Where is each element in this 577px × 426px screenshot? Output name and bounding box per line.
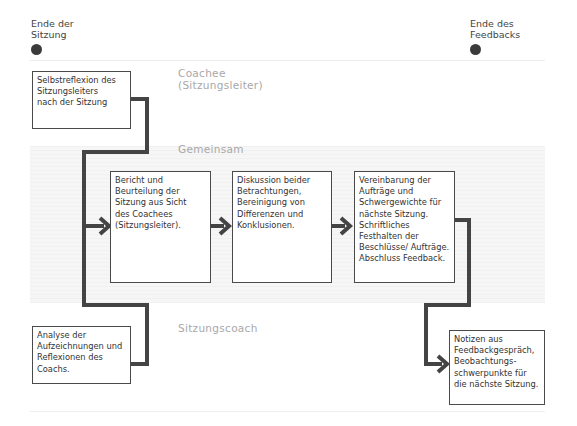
box-text-line: nach der Sitzung [37, 97, 126, 108]
milestone-end-of-session-dot-icon [31, 44, 42, 55]
box-self-reflection: Selbstreflexion des Sitzungsleiters nach… [32, 71, 131, 129]
connector-line [424, 303, 471, 307]
box-text-line: die nächste Sitzung. [454, 379, 540, 390]
box-text-line: Beschlüsse/ Aufträge. [359, 242, 450, 253]
connector-line [145, 303, 149, 366]
milestone-label-line: Feedbacks [470, 29, 520, 40]
box-report: Bericht und Beurteilung der Sitzung aus … [110, 171, 211, 283]
box-text-line: Selbstreflexion des [37, 75, 126, 86]
lane-label-coachee: Coachee (Sitzungsleiter) [178, 67, 263, 91]
lane-label-line: Coachee [178, 67, 263, 79]
box-agreement: Vereinbarung der Aufträge und Schwergewi… [354, 171, 455, 283]
milestone-end-of-session-label: Ende der Sitzung [31, 18, 74, 40]
box-text-line: Differenzen und [237, 209, 327, 220]
box-text-line: schwerpunkte für [454, 368, 540, 379]
milestone-end-of-feedback-label: Ende des Feedbacks [470, 18, 520, 40]
lane-label-line: (Sitzungsleiter) [178, 79, 263, 91]
connector-line [82, 150, 86, 307]
box-text-line: Schwergewichte für [359, 197, 450, 208]
connector-line [82, 303, 149, 307]
connector-line [145, 97, 149, 154]
milestone-end-of-feedback-dot-icon [470, 44, 481, 55]
connector-line [467, 218, 471, 307]
box-text-line: Vereinbarung der [359, 175, 450, 186]
milestone-label-line: Ende der [31, 18, 74, 29]
box-text-line: Analyse der [37, 330, 126, 341]
box-text-line: Betrachtungen, [237, 186, 327, 197]
box-text-line: Coachs. [37, 364, 126, 375]
box-discussion: Diskussion beider Betrachtungen, Bereini… [232, 171, 332, 283]
coachee-lane-top-divider [30, 60, 545, 61]
box-text-line: Diskussion beider [237, 175, 327, 186]
box-coach-analysis: Analyse der Aufzeichnungen und Reflexion… [32, 326, 131, 384]
connector-line [130, 362, 149, 366]
box-text-line: Schriftliches [359, 220, 450, 231]
arrow-right-icon [218, 216, 232, 236]
box-text-line: Beurteilung der [115, 186, 206, 197]
box-text-line: Sitzungsleiters [37, 86, 126, 97]
box-text-line: Bereinigung von [237, 197, 327, 208]
arrow-right-icon [436, 354, 450, 374]
box-text-line: Aufzeichnungen und [37, 341, 126, 352]
box-text-line: Beobachtungs- [454, 356, 540, 367]
milestone-label-line: Ende des [470, 18, 520, 29]
box-text-line: (Sitzungsleiter). [115, 220, 206, 231]
box-text-line: Abschluss Feedback. [359, 253, 450, 264]
milestone-label-line: Sitzung [31, 29, 74, 40]
connector-line [82, 150, 149, 154]
connector-line [424, 303, 428, 366]
box-text-line: des Coachees [115, 209, 206, 220]
box-text-line: Bericht und [115, 175, 206, 186]
box-text-line: Reflexionen des [37, 352, 126, 363]
diagram-bottom-divider [30, 411, 545, 412]
lane-label-shared: Gemeinsam [178, 143, 244, 155]
arrow-right-icon [339, 216, 353, 236]
lane-label-coach: Sitzungscoach [178, 322, 258, 334]
box-notes: Notizen aus Feedbackgespräch, Beobachtun… [449, 330, 545, 405]
box-text-line: Notizen aus [454, 334, 540, 345]
box-text-line: Aufträge und [359, 186, 450, 197]
box-text-line: Feedbackgespräch, [454, 345, 540, 356]
box-text-line: Sitzung aus Sicht [115, 197, 206, 208]
box-text-line: Konklusionen. [237, 220, 327, 231]
box-text-line: Festhalten der [359, 231, 450, 242]
box-text-line: nächste Sitzung. [359, 209, 450, 220]
